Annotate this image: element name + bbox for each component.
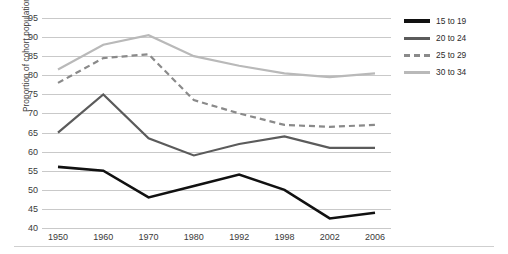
x-axis-tick-label: 2006: [365, 232, 385, 242]
y-axis-tick-label: 85: [28, 51, 38, 61]
legend-label: 25 to 29: [436, 50, 466, 60]
legend-item[interactable]: 20 to 24: [404, 31, 508, 45]
series-line: [58, 94, 375, 155]
legend-swatch: [404, 37, 430, 40]
x-axis-tick-label: 1950: [48, 232, 68, 242]
legend-item[interactable]: 30 to 34: [404, 65, 508, 79]
y-axis-tick-label: 50: [28, 185, 38, 195]
line-chart: Proportion of cohort population 40455055…: [0, 0, 508, 254]
legend-swatch: [404, 19, 430, 23]
legend-swatch: [404, 54, 430, 57]
x-axis-tick-label: 1980: [184, 232, 204, 242]
series-line: [58, 35, 375, 77]
x-axis-tick-label: 2002: [320, 232, 340, 242]
x-axis-tick-label: 1970: [139, 232, 159, 242]
legend-label: 30 to 34: [436, 67, 466, 77]
legend: 15 to 1920 to 2425 to 2930 to 34: [404, 14, 508, 82]
legend-item[interactable]: 25 to 29: [404, 48, 508, 62]
legend-item[interactable]: 15 to 19: [404, 14, 508, 28]
y-axis-tick-label: 45: [28, 204, 38, 214]
series-lines: [42, 18, 391, 228]
y-axis-tick-label: 75: [28, 89, 38, 99]
x-axis-tick-label: 1998: [274, 232, 294, 242]
legend-label: 15 to 19: [436, 16, 466, 26]
y-axis-tick-label: 55: [28, 166, 38, 176]
legend-swatch: [404, 71, 430, 74]
gridline: [42, 228, 391, 229]
y-axis-tick-label: 60: [28, 147, 38, 157]
y-axis-tick-label: 70: [28, 108, 38, 118]
y-axis-tick-label: 40: [28, 223, 38, 233]
x-axis-tick-label: 1992: [229, 232, 249, 242]
series-line: [58, 167, 375, 219]
legend-label: 20 to 24: [436, 33, 466, 43]
y-axis-tick-label: 95: [28, 13, 38, 23]
series-line: [58, 54, 375, 127]
y-axis-tick-label: 65: [28, 128, 38, 138]
plot-area: 404550556065707580859095 195019601970198…: [42, 18, 391, 228]
y-axis-tick-label: 80: [28, 70, 38, 80]
footer-divider: [14, 246, 494, 247]
y-axis-tick-label: 90: [28, 32, 38, 42]
x-axis-tick-label: 1960: [93, 232, 113, 242]
